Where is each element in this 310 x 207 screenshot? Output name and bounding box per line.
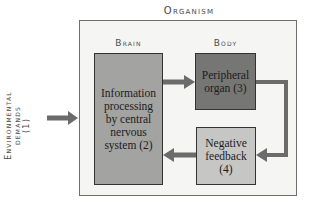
organ-to-feedback-arrow-icon [256, 82, 286, 162]
brain-to-organ-arrow-icon [163, 75, 195, 89]
feedback-to-brain-arrow-icon [163, 148, 196, 162]
arrows-layer [0, 0, 310, 207]
input-arrow-icon [47, 111, 78, 125]
